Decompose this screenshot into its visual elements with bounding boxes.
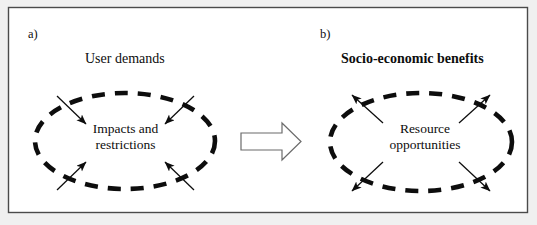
panel-b-core-line-1: Resource [366,121,484,137]
panel-a-heading: User demands [85,51,165,67]
panel-b-heading: Socio-economic benefits [341,51,484,67]
panel-b-label: b) [320,27,330,41]
panel-a-core-label: Impacts and restrictions [68,121,183,153]
panel-b-core-label: Resource opportunities [366,121,484,153]
margin-right [528,0,537,225]
panel-a-core-line-1: Impacts and [68,121,183,137]
figure-canvas [0,0,537,225]
panel-b-core-line-2: opportunities [366,137,484,153]
margin-bottom [0,213,537,225]
panel-a-core-line-2: restrictions [68,137,183,153]
panel-a-label: a) [28,27,38,41]
margin-left [0,0,8,225]
figure-root: a) User demands Impacts and restrictions… [0,0,537,225]
margin-top [0,0,537,7]
figure-border [9,8,528,213]
